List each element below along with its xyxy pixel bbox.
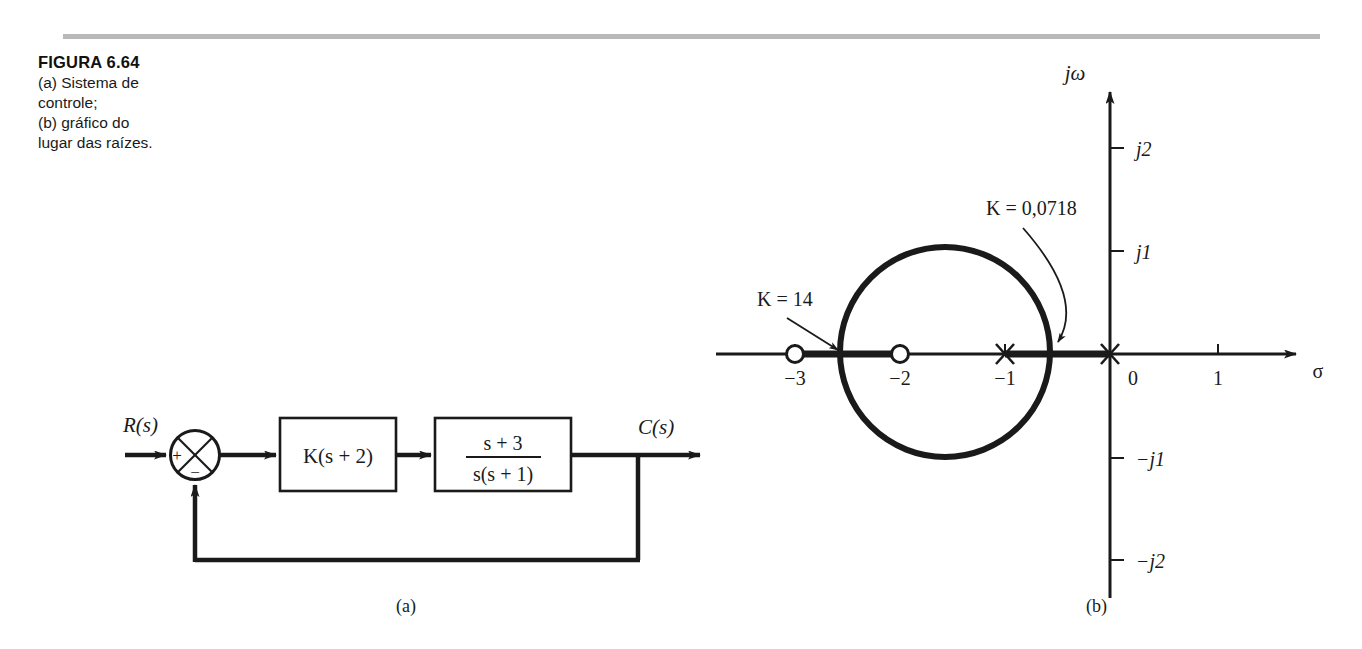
plant-denominator: s(s + 1) [473,463,533,486]
y-tick-label: j2 [1133,138,1152,161]
x-tick-label: −1 [994,367,1015,389]
input-signal-label: R(s) [122,413,158,437]
zero-marker [787,346,804,363]
annotation-k00718-label: K = 0,0718 [986,197,1077,219]
sublabel-a: (a) [396,596,416,617]
zero-marker [892,346,909,363]
x-tick-label: 0 [1128,367,1138,389]
y-tick-label: −j2 [1136,550,1165,573]
x-tick-label: −2 [889,367,910,389]
block-diagram: R(s) + − K(s + 2) s + 3 s(s + 1) C(s) [122,413,700,562]
sublabel-b: (b) [1086,596,1107,617]
annotation-k14-label: K = 14 [757,288,813,310]
y-tick-label: j1 [1133,241,1152,264]
sigma-axis-label: σ [1313,360,1324,382]
x-tick-label: 1 [1213,367,1223,389]
jomega-axis-label: jω [1062,61,1086,85]
controller-block-label: K(s + 2) [303,444,373,468]
root-locus-plot: jω σ −3 −2 −1 0 1 j2 j1 −j1 −j2 [716,61,1324,598]
summing-plus-sign: + [172,446,182,465]
summing-minus-sign: − [190,463,200,482]
y-tick-label: −j1 [1136,448,1165,471]
x-tick-label: −3 [784,367,805,389]
summing-junction: + − [171,431,220,483]
figure-canvas: R(s) + − K(s + 2) s + 3 s(s + 1) C(s) jω… [0,0,1362,649]
output-signal-label: C(s) [638,415,674,439]
plant-numerator: s + 3 [483,432,522,454]
